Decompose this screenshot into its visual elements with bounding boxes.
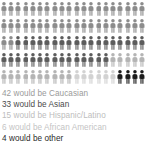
pictogram-cell bbox=[22, 35, 29, 52]
person-icon bbox=[44, 53, 50, 67]
legend-item-hispanic-latino: 15 would be Hispanic/Latino bbox=[2, 110, 144, 121]
person-icon bbox=[81, 19, 87, 33]
person-icon bbox=[15, 53, 21, 67]
pictogram-row bbox=[0, 69, 146, 86]
person-icon bbox=[117, 19, 123, 33]
person-icon bbox=[132, 36, 138, 50]
pictogram-cell bbox=[51, 18, 58, 35]
person-icon bbox=[117, 2, 123, 16]
pictogram-cell bbox=[58, 18, 65, 35]
person-icon bbox=[66, 70, 72, 84]
person-icon bbox=[139, 2, 145, 16]
person-icon bbox=[15, 36, 21, 50]
person-icon bbox=[96, 36, 102, 50]
pictogram-cell bbox=[102, 35, 109, 52]
person-icon bbox=[15, 70, 21, 84]
pictogram-infographic: 42 would be Caucasian 33 would be Asian … bbox=[0, 0, 146, 145]
pictogram-cell bbox=[29, 35, 36, 52]
pictogram-row bbox=[0, 35, 146, 52]
pictogram-cell bbox=[29, 1, 36, 18]
person-icon bbox=[52, 2, 58, 16]
person-icon bbox=[110, 70, 116, 84]
person-icon bbox=[52, 53, 58, 67]
pictogram-cell bbox=[117, 69, 124, 86]
person-icon bbox=[52, 70, 58, 84]
person-icon bbox=[66, 53, 72, 67]
pictogram-cell bbox=[80, 18, 87, 35]
pictogram-cell bbox=[131, 18, 138, 35]
person-icon bbox=[117, 36, 123, 50]
person-icon bbox=[30, 19, 36, 33]
person-icon bbox=[139, 19, 145, 33]
pictogram-cell bbox=[0, 35, 7, 52]
person-icon bbox=[139, 53, 145, 67]
pictogram-cell bbox=[73, 18, 80, 35]
pictogram-cell bbox=[109, 1, 116, 18]
person-icon bbox=[44, 70, 50, 84]
person-icon bbox=[74, 70, 80, 84]
person-icon bbox=[117, 70, 123, 84]
pictogram-grid bbox=[0, 1, 146, 87]
person-icon bbox=[66, 2, 72, 16]
pictogram-cell bbox=[36, 52, 43, 69]
pictogram-cell bbox=[66, 1, 73, 18]
person-icon bbox=[103, 53, 109, 67]
pictogram-cell bbox=[58, 1, 65, 18]
pictogram-row bbox=[0, 18, 146, 35]
pictogram-cell bbox=[80, 35, 87, 52]
person-icon bbox=[30, 2, 36, 16]
pictogram-cell bbox=[7, 1, 14, 18]
pictogram-row bbox=[0, 52, 146, 69]
pictogram-cell bbox=[124, 52, 131, 69]
pictogram-cell bbox=[139, 1, 146, 18]
pictogram-cell bbox=[80, 52, 87, 69]
person-icon bbox=[23, 53, 29, 67]
pictogram-cell bbox=[109, 52, 116, 69]
pictogram-cell bbox=[109, 69, 116, 86]
person-icon bbox=[96, 2, 102, 16]
person-icon bbox=[37, 36, 43, 50]
person-icon bbox=[139, 70, 145, 84]
person-icon bbox=[110, 2, 116, 16]
pictogram-cell bbox=[73, 1, 80, 18]
person-icon bbox=[52, 19, 58, 33]
person-icon bbox=[88, 70, 94, 84]
person-icon bbox=[1, 2, 7, 16]
legend-label-african-american: 6 would be African American bbox=[2, 123, 107, 132]
pictogram-cell bbox=[22, 1, 29, 18]
pictogram-cell bbox=[95, 1, 102, 18]
pictogram-cell bbox=[124, 18, 131, 35]
person-icon bbox=[96, 19, 102, 33]
pictogram-cell bbox=[44, 1, 51, 18]
person-icon bbox=[96, 70, 102, 84]
pictogram-cell bbox=[131, 69, 138, 86]
pictogram-cell bbox=[139, 18, 146, 35]
pictogram-cell bbox=[7, 35, 14, 52]
pictogram-cell bbox=[80, 69, 87, 86]
person-icon bbox=[74, 2, 80, 16]
person-icon bbox=[59, 53, 65, 67]
pictogram-cell bbox=[36, 69, 43, 86]
pictogram-cell bbox=[7, 69, 14, 86]
pictogram-cell bbox=[0, 18, 7, 35]
person-icon bbox=[132, 70, 138, 84]
pictogram-cell bbox=[58, 52, 65, 69]
person-icon bbox=[110, 36, 116, 50]
pictogram-cell bbox=[29, 52, 36, 69]
person-icon bbox=[8, 53, 14, 67]
pictogram-cell bbox=[124, 69, 131, 86]
pictogram-cell bbox=[95, 35, 102, 52]
person-icon bbox=[59, 2, 65, 16]
pictogram-cell bbox=[73, 35, 80, 52]
legend-item-african-american: 6 would be African American bbox=[2, 122, 144, 133]
legend-item-other: 4 would be other bbox=[2, 133, 144, 144]
pictogram-cell bbox=[44, 35, 51, 52]
person-icon bbox=[96, 53, 102, 67]
person-icon bbox=[132, 19, 138, 33]
person-icon bbox=[110, 53, 116, 67]
person-icon bbox=[1, 19, 7, 33]
pictogram-cell bbox=[88, 52, 95, 69]
pictogram-cell bbox=[7, 52, 14, 69]
person-icon bbox=[8, 2, 14, 16]
person-icon bbox=[88, 36, 94, 50]
